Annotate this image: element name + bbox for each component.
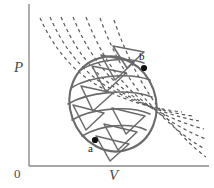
diagram-canvas (0, 0, 214, 188)
y-axis-label: P (14, 60, 23, 75)
isotherm-curves-group (40, 17, 206, 157)
isotherm-curve-2 (50, 17, 192, 116)
point-label-a: a (88, 143, 93, 154)
isotherm-curve-7 (114, 20, 206, 157)
cycle-loop-group (56, 44, 170, 164)
pv-diagram-figure: P V 0 b a (0, 0, 214, 188)
cycle-loop (56, 44, 170, 164)
point-label-b: b (139, 51, 145, 62)
point-marker-b (141, 65, 147, 71)
isotherm-curve-1 (40, 18, 182, 112)
origin-label: 0 (14, 167, 21, 180)
x-axis-label: V (109, 168, 118, 183)
